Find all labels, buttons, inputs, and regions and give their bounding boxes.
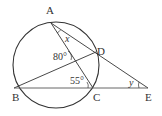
label-b: B (12, 91, 19, 103)
angle-arc-55 (87, 82, 88, 88)
angle-arc-x (57, 30, 61, 33)
angle-label-55: 55° (70, 75, 84, 86)
angle-label-y: y (128, 77, 134, 88)
angle-arc-y (138, 82, 139, 88)
circle (13, 22, 99, 108)
label-c: C (93, 91, 100, 103)
label-a: A (46, 4, 54, 16)
label-d: D (97, 45, 105, 57)
angle-arc-80 (68, 51, 71, 60)
angle-label-x: x (64, 33, 70, 44)
label-e: E (145, 91, 152, 103)
geometry-figure: A D B C E x 80° 55° y (0, 0, 162, 116)
angle-label-80: 80° (53, 51, 67, 62)
